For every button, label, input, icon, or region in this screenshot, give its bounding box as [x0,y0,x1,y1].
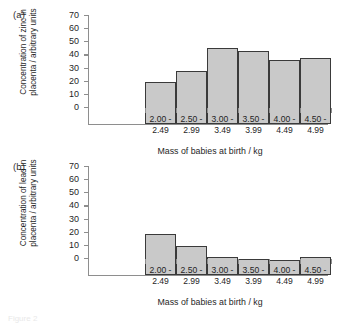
x-tick-label-line1: 2.00 - [150,265,172,275]
panel-a-x-axis-title: Mass of babies at birth / kg [88,146,332,156]
x-tick-label-line1: 2.50 - [181,265,203,275]
x-tick-label-line1: 4.50 - [305,114,327,124]
x-tick [145,108,146,113]
y-tick-label-40: 40 [69,200,79,210]
x-tick-label-line1: 4.00 - [274,265,296,275]
y-tick-70: 70 [84,166,89,167]
y-tick-label-50: 50 [69,36,79,46]
x-tick-label-line1: 3.00 - [212,114,234,124]
x-tick [269,108,270,113]
y-tick-10: 10 [84,94,89,95]
x-tick [207,259,208,264]
x-tick-label-line1: 3.50 - [243,114,265,124]
x-tick-label: 4.50 -4.99 [296,265,335,287]
y-tick-10: 10 [84,245,89,246]
x-tick-label: 4.50 -4.99 [296,114,335,136]
x-tick [269,259,270,264]
x-tick [331,108,332,113]
y-tick-60: 60 [84,179,89,180]
chart-panel-a: (a) Concentration of zinc in placenta / … [0,0,344,160]
y-tick-label-30: 30 [69,214,79,224]
y-tick-30: 30 [84,219,89,220]
panel-b-y-axis-title: Concentration of lead in placenta / arbi… [19,144,49,262]
y-tick-40: 40 [84,54,89,55]
x-tick [238,108,239,113]
panel-a-plot-area: 010203040506070 2.00 -2.492.50 -2.993.00… [88,15,334,141]
y-tick-label-20: 20 [69,76,79,86]
y-tick-label-40: 40 [69,49,79,59]
y-tick-label-60: 60 [69,23,79,33]
chart-panel-b: (b) Concentration of lead in placenta / … [0,156,344,316]
y-tick-label-30: 30 [69,63,79,73]
y-tick-0: 0 [84,258,89,259]
x-tick [300,108,301,113]
figure-container: (a) Concentration of zinc in placenta / … [0,0,344,328]
y-tick-label-70: 70 [69,10,79,20]
y-tick-70: 70 [84,15,89,16]
x-tick-label-line1: 3.00 - [212,265,234,275]
x-tick [176,259,177,264]
panel-a-y-axis-title: Concentration of zinc in placenta / arbi… [19,0,49,111]
y-tick-label-20: 20 [69,227,79,237]
y-tick-50: 50 [84,41,89,42]
y-tick-label-50: 50 [69,187,79,197]
y-tick-label-10: 10 [69,240,79,250]
x-tick [331,259,332,264]
x-tick [300,259,301,264]
y-tick-30: 30 [84,68,89,69]
y-tick-40: 40 [84,205,89,206]
y-tick-20: 20 [84,81,89,82]
x-tick-label-line1: 2.50 - [181,114,203,124]
x-tick-label-line1: 4.50 - [305,265,327,275]
y-tick-label-70: 70 [69,161,79,171]
x-tick [145,259,146,264]
y-tick-50: 50 [84,192,89,193]
x-tick-label-line1: 2.00 - [150,114,172,124]
y-tick-20: 20 [84,232,89,233]
y-tick-60: 60 [84,28,89,29]
x-tick [207,108,208,113]
x-tick-label-line2: 4.99 [296,276,335,287]
y-tick-label-0: 0 [74,253,79,263]
panel-b-plot-area: 010203040506070 2.00 -2.492.50 -2.993.00… [88,166,334,292]
x-tick-label-line1: 4.00 - [274,114,296,124]
y-tick-label-0: 0 [74,102,79,112]
y-tick-0: 0 [84,107,89,108]
x-tick-label-line2: 4.99 [296,125,335,136]
x-tick [176,108,177,113]
figure-caption: Figure 2 [8,314,37,323]
panel-b-x-axis-title: Mass of babies at birth / kg [88,297,332,307]
y-tick-label-10: 10 [69,89,79,99]
y-tick-label-60: 60 [69,174,79,184]
x-tick [238,259,239,264]
x-tick-label-line1: 3.50 - [243,265,265,275]
